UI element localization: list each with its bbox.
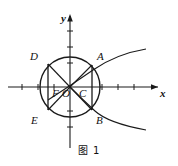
point-label-D: D [29,50,38,62]
y-axis-label: y [59,12,66,24]
x-axis-label: x [159,87,166,99]
y-axis-arrowhead [67,14,73,22]
point-label-B: B [96,114,103,126]
point-label-E: E [30,114,38,126]
segment-OD [48,64,70,87]
point-label-C: C [79,87,87,99]
figure-container: D E A B C F O y x 图 1 [0,0,178,166]
point-label-A: A [96,50,104,62]
segment-OA [70,65,92,87]
point-label-O: O [62,87,70,99]
x-axis-arrowhead [151,84,158,90]
figure-caption: 图 1 [0,142,178,157]
point-label-F: F [51,87,59,99]
